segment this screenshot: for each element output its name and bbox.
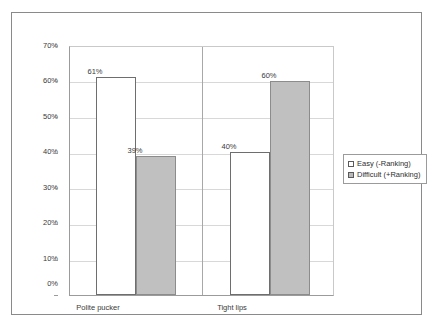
y-tick-mark-50 (54, 117, 58, 118)
bar-tight-lips-easy[interactable] (230, 152, 270, 295)
bar-tight-lips-difficult[interactable] (270, 81, 310, 295)
plot-area (69, 46, 334, 296)
legend-label-difficult: Difficult (+Ranking) (357, 170, 420, 179)
y-tick-label-70: 70% (18, 42, 58, 50)
y-tick-label-10: 10% (18, 255, 58, 263)
y-tick-mark-20 (54, 224, 58, 225)
chart-legend: Easy (-Ranking) Difficult (+Ranking) (343, 154, 427, 184)
bar-value-label-40: 40% (206, 142, 252, 151)
chart-frame: 70% 60% 50% 40% 30% 20% 10% 0% (11, 12, 422, 315)
y-tick-mark-10 (54, 260, 58, 261)
legend-label-easy: Easy (-Ranking) (357, 159, 411, 168)
chart-container: 70% 60% 50% 40% 30% 20% 10% 0% (0, 0, 433, 328)
y-tick-label-0: 0% (18, 280, 58, 288)
y-tick-mark-40 (54, 153, 58, 154)
legend-item-easy[interactable]: Easy (-Ranking) (348, 158, 422, 169)
y-tick-label-30: 30% (18, 184, 58, 192)
y-tick-mark-30 (54, 188, 58, 189)
category-label-polite-pucker: Polite pucker (38, 303, 158, 312)
y-tick-label-40: 40% (18, 148, 58, 156)
bar-value-label-60: 60% (246, 71, 292, 80)
legend-swatch-easy-icon (348, 161, 354, 167)
y-tick-mark-70 (54, 46, 58, 47)
y-tick-label-60: 60% (18, 77, 58, 85)
bar-value-label-61: 61% (72, 67, 118, 76)
y-tick-label-20: 20% (18, 219, 58, 227)
category-label-tight-lips: Tight lips (172, 303, 292, 312)
y-tick-label-50: 50% (18, 113, 58, 121)
y-tick-mark-60 (54, 81, 58, 82)
legend-swatch-difficult-icon (348, 172, 354, 178)
bar-value-label-39: 39% (112, 146, 158, 155)
category-divider (202, 47, 203, 295)
bar-polite-pucker-difficult[interactable] (136, 156, 176, 295)
y-tick-mark-0 (54, 295, 58, 296)
bar-polite-pucker-easy[interactable] (96, 77, 136, 295)
legend-item-difficult[interactable]: Difficult (+Ranking) (348, 169, 422, 180)
